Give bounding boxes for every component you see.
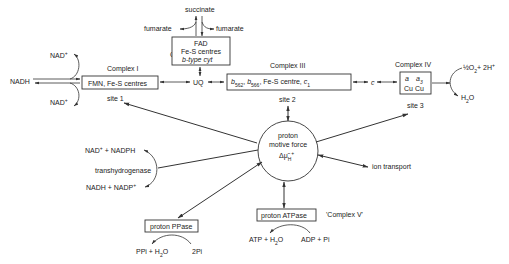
complex2-fad: FAD <box>194 40 208 47</box>
site2-label: site 2 <box>279 96 296 103</box>
nad-top-label: NAD+ <box>50 50 68 59</box>
fumarate-right-label: fumarate <box>216 25 244 32</box>
fumarate-right-arrow <box>202 22 214 29</box>
transhydrogenase-bottom: NADH + NADP+ <box>86 182 136 191</box>
site1-pmf-arrow <box>124 103 257 143</box>
fumarate-left-label: fumarate <box>144 25 172 32</box>
transhydrogenase-top: NAD+ + NADPH <box>85 145 135 154</box>
atpase-label: proton ATPase <box>261 212 307 220</box>
ion-transport-label: ion transport <box>372 163 411 171</box>
complex5-alias: 'Complex V' <box>326 211 363 219</box>
complex4-label: Complex IV <box>395 61 432 69</box>
ppase-reaction-arrow <box>152 235 191 244</box>
complex1-label: Complex I <box>107 65 139 73</box>
transhydrogenase-pmf-line <box>158 150 258 168</box>
complex4-a: a <box>405 75 409 82</box>
site3-label: site 3 <box>407 102 424 109</box>
ppase-left: PPi + H2O <box>136 248 169 258</box>
fumarate-left-arrow <box>180 22 196 29</box>
complex2-cyt: b-type cyt <box>182 56 213 64</box>
transhydrogenase-label: transhydrogenase <box>95 167 151 175</box>
oxygen-label: ½O2+ 2H+ <box>463 62 495 74</box>
pmf-line2: motive force <box>269 141 307 148</box>
atpase-left: ATP + H2O <box>249 236 284 246</box>
nad-top-arrow <box>70 54 79 79</box>
atpase-right: ADP + Pi <box>301 236 330 243</box>
ppase-pmf-arrow <box>178 162 262 218</box>
pmf-line1: proton <box>278 132 298 140</box>
complex3-label: Complex III <box>270 62 305 70</box>
succinate-label: succinate <box>185 6 215 13</box>
water-label: H2O <box>461 94 475 104</box>
pmf-ion-transport-arrow <box>318 155 368 167</box>
nadh-label: NADH <box>10 78 30 85</box>
respiratory-chain-diagram: Complex I FMN, Fe-S centres NADH NAD+ NA… <box>0 0 509 264</box>
pmf-circle <box>258 121 318 181</box>
complex4-cu: Cu Cu <box>404 85 424 92</box>
ppase-right: 2Pi <box>192 248 203 255</box>
nad-bottom-arrow <box>70 83 79 106</box>
complex2-fes: Fe-S centres <box>181 48 222 55</box>
cyt-c-label: c <box>371 79 375 86</box>
pmf-site3-arrow <box>316 114 408 142</box>
nad-bottom-label: NAD+ <box>50 97 68 106</box>
oxygen-to-water-arrow <box>450 68 462 96</box>
complex1-content: FMN, Fe-S centres <box>88 80 148 87</box>
atpase-reaction-arrow <box>270 225 310 233</box>
uq-label: UQ <box>193 79 204 87</box>
ppase-label: proton PPase <box>150 223 193 231</box>
site1-label: site 1 <box>107 95 124 102</box>
